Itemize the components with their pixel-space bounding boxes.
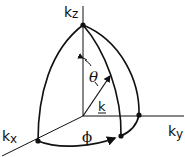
theta-arrow-top xyxy=(83,58,87,60)
kx-label: kx xyxy=(2,128,17,146)
ky-label: ky xyxy=(168,123,183,141)
kz-pole-point xyxy=(80,22,85,27)
theta-label: θ xyxy=(89,68,98,86)
kz-label: kz xyxy=(64,4,78,21)
equator-arc-rest xyxy=(121,115,139,136)
ky-point xyxy=(136,112,141,117)
kx-point xyxy=(35,138,40,143)
xz-meridian-arc xyxy=(38,25,83,141)
spherical-k-space-diagram: kz ky kx θ ϕ k xyxy=(0,0,185,157)
theta-arc xyxy=(85,60,91,66)
phi-label: ϕ xyxy=(82,128,92,146)
k-vector-label: k xyxy=(98,99,106,114)
phi-point xyxy=(118,133,123,138)
equator-arc-phi xyxy=(38,138,115,146)
